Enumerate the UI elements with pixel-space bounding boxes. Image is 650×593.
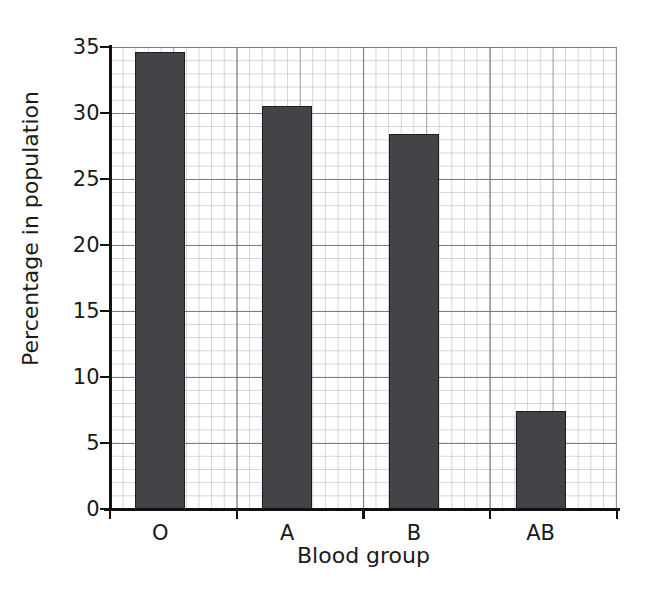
y-axis-tick-label: 25 xyxy=(73,167,100,191)
x-axis-tick xyxy=(362,508,364,519)
y-axis-tick-label: 0 xyxy=(86,497,99,521)
x-axis-line: OABAB xyxy=(104,508,620,511)
y-axis-tick-label: 15 xyxy=(73,299,100,323)
y-axis-tick xyxy=(100,244,109,246)
x-axis-tick xyxy=(109,508,111,519)
x-axis-tick-label: AB xyxy=(526,521,555,545)
y-axis-tick xyxy=(100,376,109,378)
bar-b xyxy=(389,134,439,509)
y-axis-tick xyxy=(100,112,109,114)
y-axis-tick-label: 20 xyxy=(73,233,100,257)
plot-area xyxy=(110,47,617,509)
bar-ab xyxy=(516,411,566,509)
y-axis-tick-label: 30 xyxy=(73,101,100,125)
bar-chart-figure: 05101520253035 OABAB Percentage in popul… xyxy=(0,0,650,593)
y-axis-tick xyxy=(100,178,109,180)
bar-a xyxy=(262,106,312,509)
x-axis-tick xyxy=(236,508,238,519)
x-axis-tick-label: O xyxy=(152,521,169,545)
x-axis-tick xyxy=(489,508,491,519)
y-axis-tick-label: 10 xyxy=(73,365,100,389)
x-axis-title: Blood group xyxy=(110,543,617,568)
y-axis-tick-label: 35 xyxy=(73,35,100,59)
x-axis-tick-label: B xyxy=(407,521,421,545)
y-axis-title: Percentage in population xyxy=(18,0,43,459)
y-axis-tick xyxy=(100,442,109,444)
y-axis-tick-label: 5 xyxy=(86,431,99,455)
y-axis-tick xyxy=(100,310,109,312)
y-axis-tick xyxy=(100,46,109,48)
x-axis-tick-label: A xyxy=(280,521,294,545)
bar-o xyxy=(135,52,185,509)
y-axis-line: 05101520253035 xyxy=(109,45,112,511)
x-axis-tick xyxy=(616,508,618,519)
